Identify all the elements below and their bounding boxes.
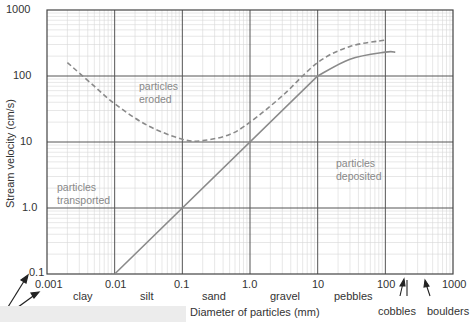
region-transported-line1: particles: [57, 181, 110, 194]
x-tick-1000: 1000: [442, 278, 466, 290]
y-tick-10: 10: [20, 135, 32, 147]
x-tick-10: 10: [312, 278, 324, 290]
x-tick-0.001: 0.001: [35, 278, 63, 290]
x-tick-0.01: 0.01: [105, 278, 126, 290]
caption-bar: [0, 306, 186, 322]
y-tick-1: 1.0: [22, 201, 37, 213]
region-eroded-line1: particles: [139, 80, 178, 93]
y-tick-0.1: 0.1: [29, 266, 44, 278]
y-tick-1000: 1000: [6, 3, 30, 15]
boulders-arrow-icon: [424, 280, 430, 296]
category-cobbles: cobbles: [378, 305, 416, 317]
region-deposited-line1: particles: [336, 157, 382, 170]
region-transported: particles transported: [57, 181, 110, 207]
region-deposited: particles deposited: [336, 157, 382, 183]
region-deposited-line2: deposited: [336, 170, 382, 183]
x-tick-100: 100: [377, 278, 395, 290]
region-transported-line2: transported: [57, 194, 110, 207]
region-eroded: particles eroded: [139, 80, 178, 106]
region-eroded-line2: eroded: [139, 93, 178, 106]
category-silt: silt: [140, 290, 153, 302]
x-tick-1: 1.0: [242, 278, 257, 290]
x-tick-0.1: 0.1: [174, 278, 189, 290]
category-pebbles: pebbles: [334, 290, 373, 302]
chart-canvas: [0, 0, 471, 322]
category-sand: sand: [202, 290, 226, 302]
x-axis-label: Diameter of particles (mm): [190, 306, 320, 318]
category-gravel: gravel: [270, 290, 300, 302]
y-axis-label: Stream velocity (cm/s): [4, 99, 16, 208]
cobbles-arrow-icon: [400, 279, 407, 296]
y-tick-100: 100: [13, 69, 31, 81]
category-boulders: boulders: [427, 305, 469, 317]
category-clay: clay: [73, 290, 93, 302]
